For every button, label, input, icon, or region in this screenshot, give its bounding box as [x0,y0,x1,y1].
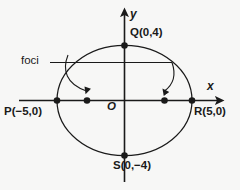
point-label-Q: Q(0,4) [130,27,163,39]
point-Q [121,42,128,49]
foci-annotation-label: foci [21,55,39,67]
point-S [121,152,128,159]
point-label-R: R(5,0) [194,106,226,118]
foci-leader-left-curve [65,55,86,91]
point-focus-right [161,97,168,104]
y-axis-label: y [130,8,137,20]
ellipse-diagram-figure: y x Q(0,4) P(−5,0) R(5,0) S(0,−4) O foci [0,0,240,190]
x-axis-label: x [207,80,214,92]
foci-leader-right-curve [165,63,174,92]
origin-label: O [107,101,116,113]
point-label-P: P(−5,0) [4,106,42,118]
point-focus-left [84,97,91,104]
point-P [54,97,61,104]
point-R [189,97,196,104]
point-label-S: S(0,−4) [113,160,151,172]
